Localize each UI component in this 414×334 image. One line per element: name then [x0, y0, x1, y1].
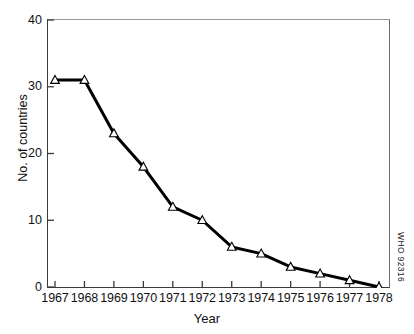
y-axis-title: No. of countries: [16, 63, 30, 213]
data-line: [55, 80, 379, 287]
who-code-annotation: WHO 92316: [395, 226, 407, 288]
y-tick-label: 10: [2, 214, 42, 227]
x-tick-label: 1978: [357, 292, 401, 305]
chart-page: 010203040 No. of countries 1967196819691…: [0, 0, 414, 334]
who-code-text: WHO 92316: [396, 232, 406, 282]
y-tick-label: 40: [2, 14, 42, 27]
y-axis-ticks: [47, 20, 54, 287]
plot-area: [47, 19, 390, 288]
x-axis-ticks: [55, 281, 379, 288]
x-axis-title: Year: [0, 311, 414, 326]
x-axis-tick-labels: 1967196819691970197119721973197419751976…: [0, 292, 414, 308]
